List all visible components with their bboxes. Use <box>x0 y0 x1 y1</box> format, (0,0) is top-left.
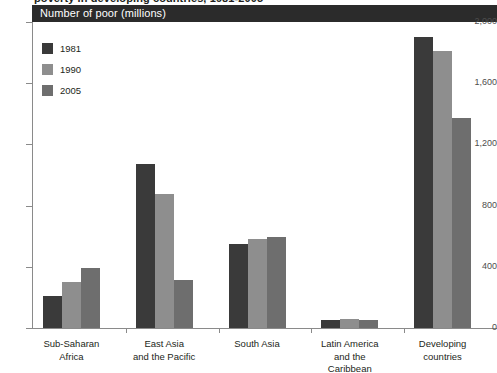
bar-1981[interactable] <box>229 244 248 328</box>
category-label: East Asia and the Pacific <box>118 338 211 363</box>
bar-1981[interactable] <box>136 164 155 328</box>
y-tick-mark <box>26 22 32 23</box>
y-tick-mark <box>26 206 32 207</box>
x-axis-line <box>32 328 497 329</box>
category-separator <box>126 328 127 333</box>
category-label: Sub-Saharan Africa <box>25 338 118 363</box>
bar-1990[interactable] <box>62 282 81 328</box>
bar-2005[interactable] <box>81 268 100 328</box>
y-tick-mark <box>26 267 32 268</box>
bar-2005[interactable] <box>174 280 193 328</box>
category-label: Developing countries <box>396 338 489 363</box>
y-tick-mark <box>26 83 32 84</box>
bar-1981[interactable] <box>414 37 433 328</box>
chart-container: poverty in developing countries, 1981-20… <box>0 0 497 373</box>
y-tick-mark <box>26 144 32 145</box>
plot-area <box>33 22 497 328</box>
category-separator <box>404 328 405 333</box>
clipped-figure-title: poverty in developing countries, 1981-20… <box>34 0 263 4</box>
bar-1990[interactable] <box>340 319 359 328</box>
y-tick-mark <box>26 328 32 329</box>
bar-2005[interactable] <box>267 237 286 328</box>
category-separator <box>219 328 220 333</box>
category-label: South Asia <box>211 338 304 351</box>
bar-1981[interactable] <box>321 320 340 328</box>
bar-1990[interactable] <box>248 239 267 328</box>
bar-1981[interactable] <box>43 296 62 328</box>
bar-1990[interactable] <box>433 51 452 328</box>
bar-2005[interactable] <box>359 320 378 328</box>
category-label: Latin America and the Caribbean <box>303 338 396 373</box>
chart-header-label: Number of poor (millions) <box>40 7 166 19</box>
bar-2005[interactable] <box>452 118 471 328</box>
category-separator <box>311 328 312 333</box>
bar-1990[interactable] <box>155 194 174 328</box>
chart-header-band: Number of poor (millions) <box>32 5 497 22</box>
